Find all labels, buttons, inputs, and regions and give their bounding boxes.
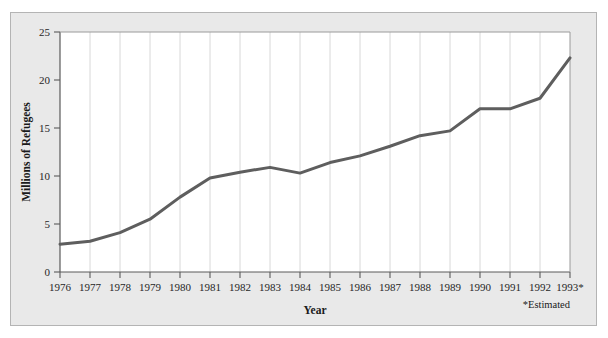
y-tick-label: 25 — [39, 26, 51, 38]
x-tick-label: 1989 — [439, 281, 462, 293]
chart-container: 0510152025 19761977197819791980198119821… — [0, 0, 608, 338]
x-axis-label: Year — [304, 304, 327, 316]
y-tick-label: 10 — [39, 170, 51, 182]
x-tick-label: 1992 — [529, 281, 551, 293]
x-tick-label: 1982 — [229, 281, 251, 293]
y-axis-label: Millions of Refugees — [20, 102, 33, 202]
x-tick-label: 1988 — [409, 281, 432, 293]
refugees-line-chart: 0510152025 19761977197819791980198119821… — [0, 0, 608, 338]
x-tick-label: 1986 — [349, 281, 372, 293]
y-tick-label: 15 — [39, 122, 51, 134]
plot-area-background — [60, 32, 570, 272]
plot-background-group — [60, 32, 570, 272]
x-tick-label: 1977 — [79, 281, 102, 293]
x-tick-label: 1990 — [469, 281, 492, 293]
x-tick-label: 1978 — [109, 281, 132, 293]
y-tick-label: 0 — [45, 266, 51, 278]
x-tick-group: 1976197719781979198019811982198319841985… — [49, 272, 584, 293]
x-tick-label: 1981 — [199, 281, 221, 293]
x-tick-label: 1993* — [556, 281, 584, 293]
x-tick-label: 1983 — [259, 281, 282, 293]
estimated-footnote: *Estimated — [523, 299, 571, 310]
x-tick-label: 1985 — [319, 281, 342, 293]
x-tick-label: 1984 — [289, 281, 312, 293]
y-tick-label: 5 — [45, 218, 51, 230]
y-tick-group: 0510152025 — [39, 26, 60, 278]
x-tick-label: 1979 — [139, 281, 162, 293]
x-tick-label: 1987 — [379, 281, 402, 293]
x-tick-label: 1991 — [499, 281, 521, 293]
x-tick-label: 1980 — [169, 281, 192, 293]
x-tick-label: 1976 — [49, 281, 72, 293]
y-tick-label: 20 — [39, 74, 51, 86]
